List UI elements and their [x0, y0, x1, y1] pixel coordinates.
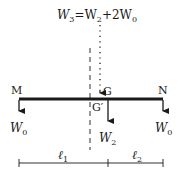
- label-g-prime: G′: [92, 101, 104, 114]
- middle-weight-label: W2: [99, 131, 116, 147]
- left-weight-label: W0: [10, 121, 27, 137]
- resultant-formula: W3=W2+2W0: [57, 8, 137, 24]
- label-g: G: [103, 85, 112, 98]
- lever-diagram: W3=W2+2W0 M N G G′ W0 W2 W0 ℓ1 ℓ2: [0, 0, 179, 180]
- right-weight-label: W0: [155, 121, 172, 137]
- dimension-label-l1: ℓ1: [58, 148, 68, 164]
- label-m: M: [11, 84, 22, 97]
- label-n: N: [158, 84, 168, 97]
- dimension-label-l2: ℓ2: [132, 148, 142, 164]
